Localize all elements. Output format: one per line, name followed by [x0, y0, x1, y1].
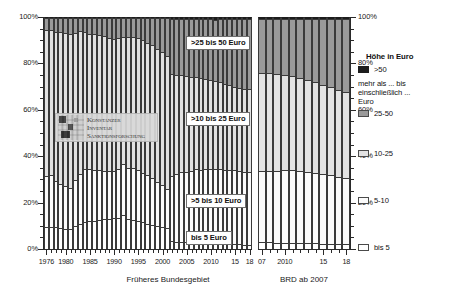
legend-note-line1: mehr als ... bis: [358, 79, 456, 88]
y-tick: [38, 249, 43, 250]
y-tick: [351, 52, 354, 53]
y-tick: [40, 214, 43, 215]
legend-item-5-10[interactable]: 5-10: [358, 196, 456, 205]
bar-segment-25-50: [296, 19, 304, 78]
legend-item-25-50[interactable]: 25-50: [358, 109, 456, 118]
bar-column[interactable]: [312, 17, 320, 249]
legend-item-10-25[interactable]: 10-25: [358, 149, 456, 158]
y-tick: [38, 63, 43, 64]
y-tick: [351, 63, 356, 64]
y-tick-label: 20%: [2, 199, 38, 207]
panel-title-left: Früheres Bundesgebiet: [108, 275, 228, 284]
x-tick: [211, 250, 212, 255]
bar-column[interactable]: [289, 17, 297, 249]
y-tick-label: 0%: [2, 245, 38, 253]
legend-note-line3: Euro: [358, 97, 456, 106]
x-tick: [61, 250, 62, 253]
kis-logo-icon: [58, 115, 84, 140]
x-tick: [316, 250, 317, 253]
y-tick: [351, 87, 354, 88]
y-tick: [351, 133, 354, 134]
bar-column[interactable]: [266, 17, 274, 249]
x-tick: [285, 250, 286, 255]
bar-segment-5-10: [335, 177, 343, 244]
y-tick: [351, 75, 354, 76]
bar-column[interactable]: [258, 17, 266, 249]
y-tick: [351, 168, 354, 169]
x-tick: [201, 250, 202, 253]
bar-column[interactable]: [327, 17, 335, 249]
bar-segment-10-25: [342, 92, 350, 178]
y-tick: [40, 52, 43, 53]
bar-segment-5-10: [289, 170, 297, 242]
bar-segment-25-50: [312, 19, 320, 82]
bar-column[interactable]: [247, 17, 252, 249]
bar-column[interactable]: [296, 17, 304, 249]
y-tick: [351, 249, 356, 250]
x-tick: [46, 250, 47, 255]
callout-5-10: >5 bis 10 Euro: [186, 194, 246, 208]
legend-label-bis-5: bis 5: [374, 243, 390, 252]
bar-segment-25-50: [266, 19, 274, 73]
bar-column[interactable]: [273, 17, 281, 249]
bar-column[interactable]: [335, 17, 343, 249]
x-tick: [71, 250, 72, 253]
bar-segment-10-25: [281, 75, 289, 170]
kis-logo-glyph-icon: [58, 115, 84, 140]
y-tick: [40, 75, 43, 76]
bar-column[interactable]: [319, 17, 327, 249]
bar-segment-5-10: [304, 172, 312, 243]
x-tick: [177, 250, 178, 253]
bar-segment-10-25: [266, 73, 274, 170]
bar-column[interactable]: [304, 17, 312, 249]
x-tick: [277, 250, 278, 253]
bar-segment-25-50: [327, 19, 335, 87]
bar-segment-5-10: [258, 171, 266, 242]
y-tick-label: 100%: [358, 13, 394, 21]
x-tick: [192, 250, 193, 253]
x-tick: [85, 250, 86, 253]
legend-item-bis-5[interactable]: bis 5: [358, 243, 456, 252]
x-tick: [105, 250, 106, 253]
y-tick: [351, 179, 354, 180]
x-tick: [323, 250, 324, 255]
x-tick: [206, 250, 207, 253]
x-tick: [153, 250, 154, 253]
x-tick: [134, 250, 135, 253]
x-tick: [129, 250, 130, 253]
watermark-line-3: Sanktionsforschung: [87, 132, 145, 140]
x-tick-label: 18: [330, 258, 362, 266]
y-tick: [351, 145, 354, 146]
x-tick: [270, 250, 271, 253]
y-tick: [351, 110, 356, 111]
legend-item-gt50[interactable]: >50: [358, 65, 456, 74]
bar-column[interactable]: [342, 17, 350, 249]
y-tick: [40, 226, 43, 227]
x-tick: [182, 250, 183, 253]
x-tick: [51, 250, 52, 253]
x-axis-right: [258, 249, 351, 250]
x-tick: [119, 250, 120, 253]
bar-segment-10-25: [273, 74, 281, 170]
bar-segment-5-10: [281, 170, 289, 242]
bar-column[interactable]: [281, 17, 289, 249]
y-tick: [40, 168, 43, 169]
y-tick: [40, 121, 43, 122]
y-axis-left: [43, 17, 44, 250]
x-tick: [339, 250, 340, 253]
panel-title-right: BRD ab 2007: [249, 275, 359, 284]
x-tick: [250, 250, 251, 255]
x-tick: [196, 250, 197, 253]
y-tick: [40, 87, 43, 88]
bar-segment-10-25: [319, 85, 327, 174]
x-tick: [225, 250, 226, 253]
x-tick: [346, 250, 347, 255]
bar-series-right: [258, 17, 350, 249]
bar-segment-5-10: [312, 173, 320, 244]
y-tick-label: 40%: [2, 152, 38, 160]
y-tick: [351, 29, 354, 30]
bar-segment-5-10: [273, 171, 281, 243]
x-tick: [90, 250, 91, 255]
x-tick: [187, 250, 188, 255]
legend-swatch-bis-5-icon: [358, 244, 369, 251]
